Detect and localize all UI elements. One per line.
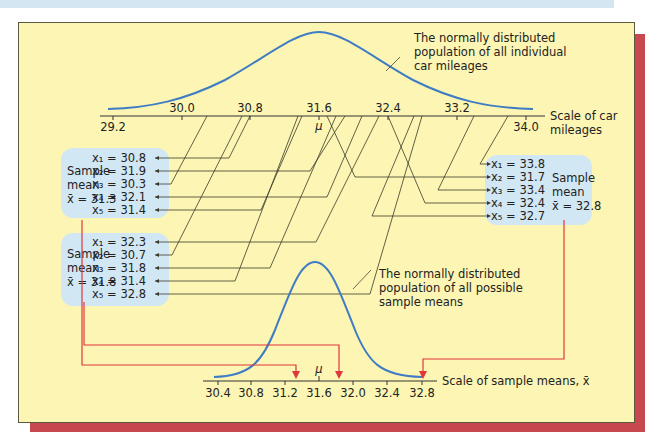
population-note-3: car mileages [414,59,488,73]
box2-x3: x₃ = 31.8 [92,261,146,275]
tick-34-0: 34.0 [513,120,539,134]
tick-29-2: 29.2 [100,120,126,134]
mean-tick-32-4: 32.4 [374,386,400,400]
tick-33-2: 33.2 [444,101,470,115]
mean-tick-30-4: 30.4 [205,386,231,400]
sampling-axis-label: Scale of sample means, x̄ [442,374,590,388]
tick-31-6: 31.6 [306,101,332,115]
box2-x5: x₅ = 32.8 [92,287,146,301]
box3-x5: x₅ = 32.7 [491,209,545,223]
sampling-note-1: The normally distributed [378,267,520,281]
mean-tick-32-0: 32.0 [340,386,366,400]
box3-mean-word: mean [552,185,585,199]
box3-x3: x₃ = 33.4 [491,183,545,197]
box2-x1: x₁ = 32.3 [92,235,146,249]
box1-x1: x₁ = 30.8 [92,151,146,165]
sampling-mu-label: μ [314,362,322,376]
population-axis-label-2: mileages [550,123,602,137]
sampling-leader [353,270,371,289]
box2-x4: x₄ = 31.4 [92,274,146,288]
box1-x2: x₂ = 31.9 [92,164,146,178]
box3-mean-value: x̄ = 32.8 [552,199,601,213]
box1-x3: x₃ = 30.3 [92,177,146,191]
box3-x1: x₁ = 33.8 [491,157,545,171]
tick-32-4: 32.4 [375,101,401,115]
tick-30-0: 30.0 [169,101,195,115]
sampling-diagram: The normally distributed population of a… [0,0,660,447]
mean-tick-31-6: 31.6 [306,386,332,400]
sampling-note-2: population of all possible [379,281,523,295]
box2-x2: x₂ = 30.7 [92,248,146,262]
box3-x2: x₂ = 31.7 [491,170,545,184]
mean-tick-32-8: 32.8 [409,386,435,400]
population-note-1: The normally distributed [413,31,555,45]
mean-tick-30-8: 30.8 [238,386,264,400]
population-axis-label-1: Scale of car [550,109,618,123]
box1-x4: x₄ = 32.1 [92,190,146,204]
box1-x5: x₅ = 31.4 [92,203,146,217]
box3-sample-word: Sample [552,171,595,185]
population-mu-label: μ [314,119,322,133]
tick-30-8: 30.8 [237,101,263,115]
mean-tick-31-2: 31.2 [272,386,298,400]
population-note-2: population of all individual [414,45,567,59]
sampling-note-3: sample means [379,295,463,309]
box3-x4: x₄ = 32.4 [491,196,545,210]
